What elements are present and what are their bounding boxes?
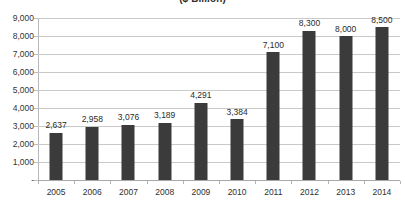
y-axis-tick-label: 4,000	[2, 104, 34, 113]
x-axis-tick-label: 2007	[119, 188, 138, 197]
y-axis-tick-label: 1,000	[2, 158, 34, 167]
y-axis-tick-mark	[34, 36, 38, 37]
bar-group: 3,076	[110, 18, 146, 180]
bar-value-label: 8,500	[371, 16, 392, 25]
y-axis-tick-label: 8,000	[2, 32, 34, 41]
bar-group: 2,958	[74, 18, 110, 180]
bar-group: 3,384	[219, 18, 255, 180]
bar-group: 8,300	[291, 18, 327, 180]
bar-group: 8,500	[364, 18, 400, 180]
y-axis-tick-mark	[34, 72, 38, 73]
y-axis-labels: 9,0008,0007,0006,0005,0004,0003,0002,000…	[0, 0, 34, 203]
bar-group: 8,000	[328, 18, 364, 180]
x-axis-tick-mark	[183, 181, 184, 184]
x-axis-tick-mark	[110, 181, 111, 184]
bar[interactable]	[158, 123, 171, 180]
bar-value-label: 3,076	[118, 113, 139, 122]
y-axis-tick-mark	[34, 90, 38, 91]
bar[interactable]	[375, 27, 388, 180]
y-axis-tick-mark	[34, 162, 38, 163]
x-axis-tick-label: 2011	[264, 188, 282, 197]
x-axis-tick-mark	[219, 181, 220, 184]
bar-group: 7,100	[255, 18, 291, 180]
x-axis-tick-label: 2006	[83, 188, 102, 197]
x-axis-tick-mark	[364, 181, 365, 184]
x-axis-tick-label: 2010	[228, 188, 247, 197]
chart-title: ($ Billion)	[0, 0, 405, 4]
bar-value-label: 3,189	[154, 111, 175, 120]
bar-value-label: 3,384	[226, 108, 247, 117]
x-axis-tick-label: 2008	[155, 188, 174, 197]
bar-group: 4,291	[183, 18, 219, 180]
bar-group: 2,637	[38, 18, 74, 180]
bar-value-label: 2,637	[45, 121, 66, 130]
x-axis-tick-mark	[74, 181, 75, 184]
bar[interactable]	[231, 119, 244, 180]
x-axis-tick-label: 2005	[47, 188, 66, 197]
bar[interactable]	[339, 36, 352, 180]
bar-value-label: 4,291	[190, 91, 211, 100]
x-axis-tick-mark	[400, 181, 401, 184]
bar-chart: ($ Billion) 9,0008,0007,0006,0005,0004,0…	[0, 0, 405, 203]
bar-value-label: 7,100	[263, 41, 284, 50]
y-axis-tick-mark	[34, 126, 38, 127]
x-axis-tick-mark	[291, 181, 292, 184]
bar-group: 3,189	[147, 18, 183, 180]
x-axis-tick-mark	[38, 181, 39, 184]
bar-value-label: 2,958	[82, 115, 103, 124]
y-axis-tick-mark	[34, 108, 38, 109]
y-axis-tick-label: 2,000	[2, 140, 34, 149]
y-axis-tick-label: 6,000	[2, 68, 34, 77]
bar-value-label: 8,300	[299, 19, 320, 28]
y-axis-tick-label: 5,000	[2, 86, 34, 95]
bar[interactable]	[50, 133, 63, 180]
bar[interactable]	[303, 31, 316, 180]
plot-area: 2,6372,9583,0763,1894,2913,3847,1008,300…	[38, 18, 400, 180]
y-axis-tick-label: 7,000	[2, 50, 34, 59]
bar-value-label: 8,000	[335, 25, 356, 34]
bar[interactable]	[122, 125, 135, 180]
y-axis-tick-label: 3,000	[2, 122, 34, 131]
y-axis-tick-label: 9,000	[2, 14, 34, 23]
x-axis-tick-mark	[255, 181, 256, 184]
y-axis-tick-label: -	[2, 176, 34, 185]
y-axis-tick-mark	[34, 144, 38, 145]
bar[interactable]	[86, 127, 99, 180]
y-axis-tick-mark	[34, 18, 38, 19]
x-axis-tick-label: 2012	[300, 188, 319, 197]
x-axis-tick-label: 2013	[336, 188, 355, 197]
x-axis-tick-mark	[328, 181, 329, 184]
y-axis-tick-mark	[34, 54, 38, 55]
x-axis-tick-label: 2009	[191, 188, 210, 197]
bar[interactable]	[267, 52, 280, 180]
x-axis-tick-label: 2014	[372, 188, 391, 197]
x-axis-tick-mark	[147, 181, 148, 184]
bar[interactable]	[194, 103, 207, 180]
